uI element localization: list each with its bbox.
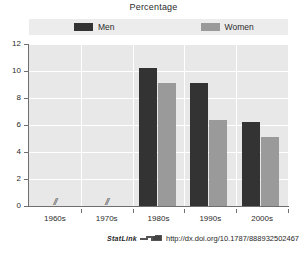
x-axis-tick xyxy=(133,209,134,213)
y-axis-tick-label: 4 xyxy=(1,147,21,156)
x-axis-label-2000s: 2000s xyxy=(236,214,288,223)
statlink-icon xyxy=(140,235,162,242)
bar-men-1990s xyxy=(190,83,208,206)
statlink-url[interactable]: http://dx.doi.org/10.1787/888932502467 xyxy=(166,234,299,243)
x-axis-label-1980s: 1980s xyxy=(133,214,185,223)
chart-title: Percentage xyxy=(0,2,307,12)
x-axis-tick xyxy=(236,209,237,213)
bar-group xyxy=(29,44,81,206)
y-axis-tick xyxy=(24,152,29,153)
y-axis-tick xyxy=(24,179,29,180)
x-axis-label-1960s: 1960s xyxy=(29,214,81,223)
y-axis-labels: 024681012 xyxy=(0,44,21,207)
y-axis-tick-label: 12 xyxy=(1,39,21,48)
y-axis-tick-label: 2 xyxy=(1,174,21,183)
y-axis-tick-label: 8 xyxy=(1,93,21,102)
legend-item-women: Women xyxy=(201,22,254,32)
x-axis-tick xyxy=(288,209,289,213)
y-axis-tick-label: 6 xyxy=(1,120,21,129)
chart-figure: Percentage Men Women 024681012 1960s//19… xyxy=(0,0,307,257)
bar-men-2000s xyxy=(242,122,260,206)
y-axis-tick xyxy=(24,125,29,126)
x-axis-label-1990s: 1990s xyxy=(184,214,236,223)
bar-men-1980s xyxy=(139,68,157,206)
y-axis-tick-label: 10 xyxy=(1,66,21,75)
bar-series-container xyxy=(29,44,288,206)
legend-item-men: Men xyxy=(74,22,115,32)
x-axis-labels: 1960s//1970s//1980s1990s2000s xyxy=(29,209,288,225)
bar-women-1990s xyxy=(209,120,227,206)
y-axis-tick xyxy=(24,206,29,207)
y-axis-tick xyxy=(24,98,29,99)
y-axis-tick xyxy=(24,71,29,72)
legend-label-men: Men xyxy=(98,22,115,32)
missing-data-break-1960s: // xyxy=(29,197,81,207)
missing-data-break-1970s: // xyxy=(81,197,133,207)
bar-group xyxy=(81,44,133,206)
bar-group xyxy=(236,44,288,206)
legend-swatch-men xyxy=(74,23,93,31)
y-axis-tick xyxy=(24,44,29,45)
statlink-label: StatLink xyxy=(107,235,137,242)
bar-group xyxy=(133,44,185,206)
x-axis-label-1970s: 1970s xyxy=(81,214,133,223)
statlink-footer: StatLinkhttp://dx.doi.org/10.1787/888932… xyxy=(0,234,299,243)
legend-swatch-women xyxy=(201,23,220,31)
legend-label-women: Women xyxy=(225,22,254,32)
chart-legend: Men Women xyxy=(29,19,288,35)
plot-area xyxy=(29,44,288,206)
x-axis-tick xyxy=(184,209,185,213)
bar-women-2000s xyxy=(261,137,279,206)
y-axis-tick-label: 0 xyxy=(1,201,21,210)
bar-group xyxy=(184,44,236,206)
bar-women-1980s xyxy=(158,83,176,206)
x-axis-tick xyxy=(81,209,82,213)
